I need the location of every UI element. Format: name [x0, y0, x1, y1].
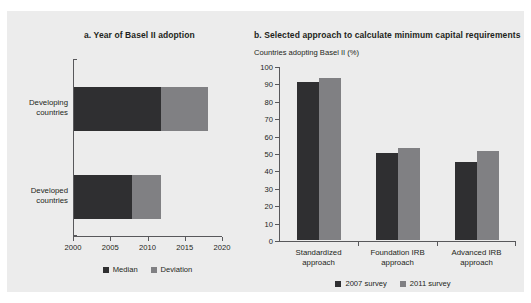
y-axis-tick	[275, 171, 279, 172]
category-label-developing: Developing countries	[6, 98, 68, 117]
category-label-line-1: Developed	[6, 186, 68, 196]
figure-container: a. Year of Basel II adoption Developing …	[7, 11, 524, 292]
y-axis-tick-label: 30	[265, 184, 273, 193]
category-label-line: approach	[296, 258, 342, 268]
category-label: Advanced IRBapproach	[452, 248, 502, 267]
y-axis-tick	[275, 206, 279, 207]
category-label: Foundation IRBapproach	[370, 248, 424, 267]
legend-swatch-2007-survey	[335, 281, 341, 287]
chart-panel-a: a. Year of Basel II adoption Developing …	[7, 11, 250, 292]
bar-series-2007	[297, 82, 319, 240]
category-label-line-2: countries	[6, 108, 68, 118]
x-axis-tick-label: 2020	[214, 243, 231, 252]
bar-row-developed: Developed countries	[74, 175, 161, 219]
x-axis-tick	[437, 242, 438, 246]
category-label-line: Standardized	[296, 248, 342, 258]
legend-item-deviation: Deviation	[151, 265, 193, 274]
x-axis-tick	[185, 237, 186, 241]
x-axis-tick-label: 2000	[65, 243, 82, 252]
y-axis-tick-label: 100	[260, 63, 273, 72]
panel-a-axis-cap-top	[73, 59, 77, 60]
category-label: Standardizedapproach	[296, 248, 342, 267]
panel-b-plot-area: 0102030405060708090100 Standardizedappro…	[279, 67, 516, 241]
y-axis-tick-label: 20	[265, 202, 273, 211]
y-axis-tick-label: 70	[265, 115, 273, 124]
bar-segment-median-developing	[74, 87, 161, 131]
y-axis-tick-label: 90	[265, 80, 273, 89]
panel-b-y-axis-line	[279, 67, 280, 241]
y-axis-tick	[275, 189, 279, 190]
legend-label-median: Median	[113, 265, 138, 274]
bar-segment-median-developed	[74, 175, 132, 219]
bar-series-2007	[376, 153, 398, 240]
category-label-line: Foundation IRB	[370, 248, 424, 258]
bar-segment-deviation-developing	[161, 87, 208, 131]
x-axis-tick	[515, 242, 516, 246]
bar-group	[297, 66, 341, 240]
legend-swatch-median	[103, 267, 109, 273]
bar-series-2011	[398, 148, 420, 240]
y-axis-tick	[275, 84, 279, 85]
panel-b-axis-note: Countries adopting Basel II (%)	[254, 48, 359, 57]
bar-series-2011	[319, 78, 341, 240]
category-label-line: Advanced IRB	[452, 248, 502, 258]
legend-label-deviation: Deviation	[161, 265, 193, 274]
legend-swatch-2011-survey	[400, 281, 406, 287]
y-axis-tick	[275, 67, 279, 68]
y-axis-tick-label: 80	[265, 97, 273, 106]
bar-series-2011	[477, 151, 499, 240]
y-axis-tick-label: 60	[265, 132, 273, 141]
panel-b-x-axis-line	[279, 241, 516, 242]
bar-group	[455, 66, 499, 240]
legend-label-2007-survey: 2007 survey	[345, 279, 386, 288]
bar-series-2007	[455, 162, 477, 240]
panel-b-title: b. Selected approach to calculate minimu…	[254, 30, 520, 40]
category-label-line-2: countries	[6, 196, 68, 206]
panel-a-legend: Median Deviation	[73, 265, 222, 274]
panel-b-legend: 2007 survey 2011 survey	[270, 279, 516, 288]
legend-swatch-deviation	[151, 267, 157, 273]
panel-a-plot-area: Developing countries Developed countries…	[73, 59, 222, 236]
x-axis-tick	[110, 237, 111, 241]
bar-row-developing: Developing countries	[74, 87, 208, 131]
x-axis-tick-label: 2005	[102, 243, 119, 252]
category-label-line: approach	[452, 258, 502, 268]
y-axis-tick-label: 50	[265, 150, 273, 159]
x-axis-tick	[358, 242, 359, 246]
panel-a-title: a. Year of Basel II adoption	[84, 30, 195, 40]
x-axis-tick	[148, 237, 149, 241]
y-axis-tick-label: 40	[265, 167, 273, 176]
legend-item-median: Median	[103, 265, 138, 274]
y-axis-tick-label: 0	[269, 237, 273, 246]
category-label-line: approach	[370, 258, 424, 268]
legend-label-2011-survey: 2011 survey	[410, 279, 451, 288]
legend-item-2007-survey: 2007 survey	[335, 279, 386, 288]
bar-group	[376, 66, 420, 240]
y-axis-tick	[275, 119, 279, 120]
category-label-line-1: Developing	[6, 98, 68, 108]
chart-panel-b: b. Selected approach to calculate minimu…	[250, 11, 524, 292]
legend-item-2011-survey: 2011 survey	[400, 279, 451, 288]
y-axis-tick	[275, 224, 279, 225]
y-axis-tick-label: 10	[265, 219, 273, 228]
y-axis-tick	[275, 241, 279, 242]
x-axis-tick-label: 2010	[139, 243, 156, 252]
category-label-developed: Developed countries	[6, 186, 68, 205]
bar-segment-deviation-developed	[132, 175, 161, 219]
y-axis-tick	[275, 102, 279, 103]
y-axis-tick	[275, 137, 279, 138]
x-axis-tick	[73, 237, 74, 241]
x-axis-tick	[222, 237, 223, 241]
y-axis-tick	[275, 154, 279, 155]
x-axis-tick-label: 2015	[176, 243, 193, 252]
